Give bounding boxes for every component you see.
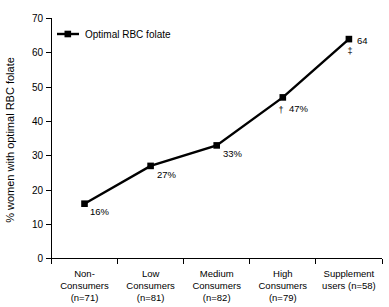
svg-text:Consumers: Consumers bbox=[126, 280, 175, 291]
data-point-marker-1 bbox=[81, 200, 88, 207]
y-axis-title: % women with optimal RBC folate bbox=[4, 57, 16, 223]
data-point-marker-4 bbox=[280, 94, 287, 101]
legend-label-optimal-rbc-folate: Optimal RBC folate bbox=[85, 29, 171, 40]
y-tick-label-50: 50 bbox=[32, 82, 44, 93]
data-label-3: 33% bbox=[223, 148, 243, 159]
svg-text:Low: Low bbox=[142, 268, 160, 279]
svg-text:Consumers: Consumers bbox=[192, 280, 241, 291]
svg-text:(n=79): (n=79) bbox=[269, 292, 297, 303]
y-tick-label-60: 60 bbox=[32, 47, 44, 58]
data-point-marker-5 bbox=[346, 36, 353, 43]
category-label-supplement-users: Supplement users (n=58) bbox=[322, 268, 376, 291]
svg-text:(n=71): (n=71) bbox=[71, 292, 99, 303]
y-tick-label-10: 10 bbox=[32, 219, 44, 230]
svg-text:(n=81): (n=81) bbox=[137, 292, 165, 303]
chart-container: % women with optimal RBC folate 70 60 50… bbox=[0, 0, 389, 307]
svg-text:(n=82): (n=82) bbox=[203, 292, 231, 303]
y-tick-label-70: 70 bbox=[32, 13, 44, 24]
dagger-annotation-high-consumers: † bbox=[278, 105, 283, 115]
svg-text:Consumers: Consumers bbox=[60, 280, 109, 291]
y-tick-label-30: 30 bbox=[32, 150, 44, 161]
svg-text:High: High bbox=[273, 268, 293, 279]
data-label-2: 27% bbox=[157, 169, 177, 180]
y-tick-label-20: 20 bbox=[32, 185, 44, 196]
data-point-marker-2 bbox=[147, 163, 154, 170]
legend-marker-swatch bbox=[65, 31, 72, 38]
data-label-4: 47% bbox=[289, 103, 309, 114]
svg-text:Medium: Medium bbox=[200, 268, 234, 279]
line-chart: % women with optimal RBC folate 70 60 50… bbox=[0, 0, 389, 307]
svg-text:Consumers: Consumers bbox=[259, 280, 308, 291]
svg-text:Non-: Non- bbox=[74, 268, 95, 279]
double-dagger-annotation-supplement-users: ‡ bbox=[347, 46, 352, 56]
data-label-5: 64 bbox=[357, 35, 368, 46]
svg-text:users (n=58): users (n=58) bbox=[322, 280, 376, 291]
y-tick-label-40: 40 bbox=[32, 116, 44, 127]
svg-text:Supplement: Supplement bbox=[324, 268, 375, 279]
data-point-marker-3 bbox=[213, 142, 220, 149]
data-label-1: 16% bbox=[90, 206, 110, 217]
y-tick-label-0: 0 bbox=[37, 253, 43, 264]
